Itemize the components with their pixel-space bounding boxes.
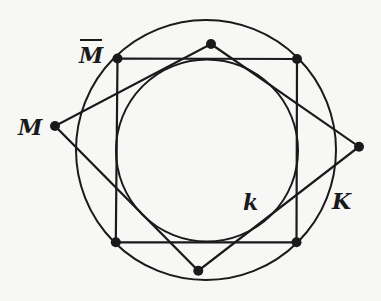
label-K: K — [331, 188, 352, 214]
diagram-canvas: M M k K — [0, 0, 381, 301]
geometry-diagram: M M k K — [0, 0, 381, 301]
vertex-point — [292, 54, 302, 64]
vertex-point — [50, 121, 60, 131]
vertex-point — [193, 266, 203, 276]
vertex-point — [354, 142, 364, 152]
vertex-point — [113, 54, 123, 64]
vertex-point — [292, 237, 302, 247]
vertex-point — [206, 39, 216, 49]
vertex-points — [50, 39, 364, 276]
label-M-bar: M — [78, 42, 104, 68]
label-M: M — [17, 114, 43, 140]
label-k: k — [243, 189, 258, 215]
vertex-point — [111, 237, 121, 247]
